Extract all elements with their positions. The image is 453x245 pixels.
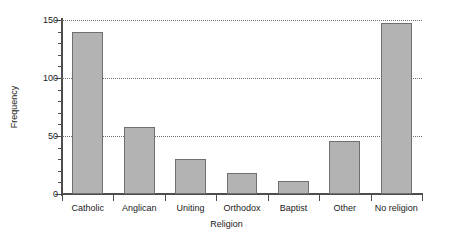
x-tick [268, 195, 269, 201]
x-tick [113, 195, 114, 201]
x-tick-label: Baptist [280, 203, 308, 213]
y-tick-label: 50 [48, 131, 58, 141]
y-tick-minor [58, 159, 62, 160]
x-tick [422, 195, 423, 201]
x-tick-label: Catholic [71, 203, 104, 213]
bar [278, 181, 309, 194]
y-tick-minor [58, 171, 62, 172]
x-tick [319, 195, 320, 201]
x-tick-label: Uniting [177, 203, 205, 213]
y-tick-minor [58, 101, 62, 102]
y-tick-minor [58, 32, 62, 33]
y-tick-label: 150 [43, 15, 58, 25]
x-tick [165, 195, 166, 201]
bar [72, 32, 103, 194]
x-axis-title: Religion [0, 219, 453, 229]
bar-chart: 050100150 Frequency Religion CatholicAng… [0, 0, 453, 245]
gridline [62, 78, 422, 79]
gridline [62, 136, 422, 137]
y-tick-minor [58, 66, 62, 67]
x-tick [62, 195, 63, 201]
bar [329, 141, 360, 194]
y-tick-minor [58, 43, 62, 44]
bar [175, 159, 206, 194]
bar [124, 127, 155, 194]
y-tick-label: 0 [53, 189, 58, 199]
x-tick [216, 195, 217, 201]
x-tick-label: Orthodox [223, 203, 260, 213]
y-tick-minor [58, 55, 62, 56]
y-tick-minor [58, 124, 62, 125]
gridline [62, 20, 422, 21]
y-tick-minor [58, 148, 62, 149]
x-tick-label: No religion [375, 203, 418, 213]
y-tick-minor [58, 113, 62, 114]
y-tick-minor [58, 182, 62, 183]
plot-area: 050100150 [62, 20, 422, 194]
x-tick-label: Anglican [122, 203, 157, 213]
x-tick [371, 195, 372, 201]
y-tick-label: 100 [43, 73, 58, 83]
bar [381, 23, 412, 194]
y-axis-title: Frequency [9, 86, 19, 129]
y-tick-minor [58, 90, 62, 91]
x-tick-label: Other [334, 203, 357, 213]
bar [227, 173, 258, 194]
